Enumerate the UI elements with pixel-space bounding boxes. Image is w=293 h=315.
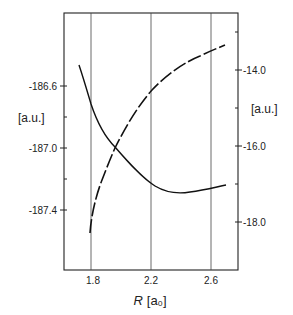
y-left-tick-label: -187.4 <box>29 205 58 216</box>
x-tick-label: 1.8 <box>86 275 100 286</box>
x-axis-title: R[a₀] <box>133 293 166 308</box>
grid-lines <box>91 13 211 270</box>
right-axis-tick-labels: -14.0 -16.0 -18.0 <box>243 65 266 228</box>
y-right-unit-label: [a.u.] <box>251 102 278 116</box>
y-left-unit-label: [a.u.] <box>18 111 45 125</box>
solid-curve-energy <box>79 65 226 193</box>
chart: -186.6 -187.0 -187.4 [a.u.] -14.0 -16.0 … <box>0 0 293 315</box>
left-axis-tick-labels: -186.6 -187.0 -187.4 <box>29 81 58 216</box>
x-axis-tick-labels: 1.8 2.2 2.6 <box>86 275 218 286</box>
x-tick-label: 2.6 <box>204 275 218 286</box>
dashed-curve <box>90 45 225 233</box>
y-left-tick-label: -186.6 <box>29 81 58 92</box>
y-right-tick-label: -18.0 <box>243 217 266 228</box>
y-right-tick-label: -16.0 <box>243 141 266 152</box>
x-tick-label: 2.2 <box>144 275 158 286</box>
y-right-tick-label: -14.0 <box>243 65 266 76</box>
y-left-tick-label: -187.0 <box>29 143 58 154</box>
